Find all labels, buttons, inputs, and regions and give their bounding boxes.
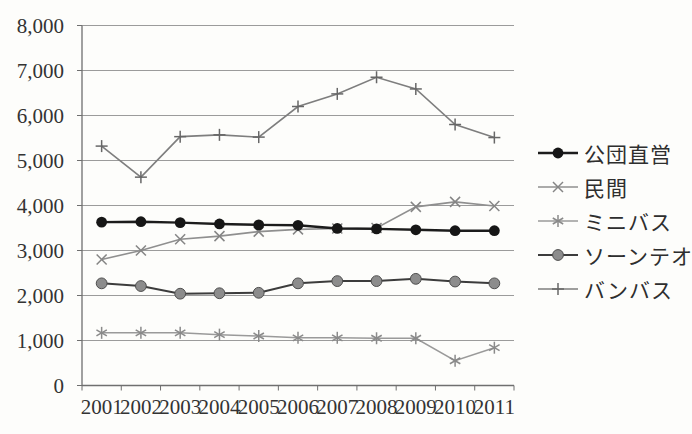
x-tick-label: 2010 <box>434 395 476 419</box>
legend-label: 公団直営 <box>584 138 672 168</box>
y-tick-label: 5,000 <box>17 149 64 173</box>
y-tick-label: 1,000 <box>17 329 64 353</box>
legend-item-minibus: ミニバス <box>538 204 692 238</box>
series-marker-filled-circle-gray <box>371 276 382 287</box>
series-marker-filled-circle-black <box>450 225 461 236</box>
y-tick-label: 3,000 <box>17 239 64 263</box>
series-marker-plus <box>552 283 564 295</box>
x-tick-label: 2004 <box>198 395 241 419</box>
x-tick-label: 2002 <box>120 395 162 419</box>
y-tick-label: 6,000 <box>17 104 64 128</box>
series-marker-filled-circle-black <box>489 225 500 236</box>
legend-item-minkan: 民間 <box>538 170 692 204</box>
x-tick-label: 2011 <box>474 395 515 419</box>
y-tick-label: 0 <box>54 374 65 398</box>
legend-label: 民間 <box>584 172 628 202</box>
y-tick-label: 7,000 <box>17 59 64 83</box>
series-marker-filled-circle-gray <box>175 288 186 299</box>
legend-marker-plus <box>538 277 582 301</box>
legend-marker-filled-circle-gray <box>538 243 582 267</box>
series-marker-plus <box>213 129 225 141</box>
series-marker-filled-circle-gray <box>293 278 304 289</box>
series-marker-filled-circle-black <box>332 223 343 234</box>
series-marker-filled-circle-gray <box>332 276 343 287</box>
series-marker-filled-circle-black <box>371 224 382 235</box>
legend-item-koudan-chokuei: 公団直営 <box>538 136 692 170</box>
series-marker-filled-circle-gray <box>214 288 225 299</box>
series-marker-plus <box>488 132 500 144</box>
x-tick-label: 2003 <box>159 395 201 419</box>
legend-label: ソーンテオ <box>584 240 692 270</box>
series-marker-asterisk <box>489 342 499 354</box>
series-marker-filled-circle-black <box>96 217 107 228</box>
y-tick-label: 8,000 <box>17 14 64 38</box>
legend-item-songthaew: ソーンテオ <box>538 238 692 272</box>
legend: 公団直営 民間 ミニバス ソーンテオ バンバス <box>538 136 692 306</box>
series-marker-filled-circle-gray <box>96 278 107 289</box>
x-tick-label: 2007 <box>316 395 358 419</box>
legend-marker-x <box>538 175 582 199</box>
series-marker-filled-circle-gray <box>136 281 147 292</box>
series-marker-filled-circle-gray <box>410 273 421 284</box>
series-marker-filled-circle-black <box>410 224 421 235</box>
x-tick-label: 2001 <box>81 395 123 419</box>
series-2 <box>96 327 499 367</box>
legend-marker-filled-circle-black <box>538 141 582 165</box>
x-tick-label: 2005 <box>238 395 280 419</box>
y-tick-label: 2,000 <box>17 284 64 308</box>
chart-figure: 01,0002,0003,0004,0005,0006,0007,0008,00… <box>0 0 692 434</box>
series-marker-filled-circle-black <box>293 220 304 231</box>
legend-item-vanbus: バンバス <box>538 272 692 306</box>
series-marker-filled-circle-gray <box>253 287 264 298</box>
x-tick-label: 2009 <box>395 395 437 419</box>
series-marker-filled-circle-black <box>553 148 564 159</box>
series-line <box>102 77 495 177</box>
series-marker-filled-circle-black <box>136 216 147 227</box>
series-marker-filled-circle-black <box>175 217 186 228</box>
y-tick-label: 4,000 <box>17 194 64 218</box>
legend-label: バンバス <box>584 274 673 304</box>
legend-label: ミニバス <box>584 206 672 236</box>
series-marker-filled-circle-black <box>214 219 225 230</box>
series-marker-filled-circle-gray <box>553 250 564 261</box>
series-marker-filled-circle-gray <box>450 276 461 287</box>
series-marker-plus <box>371 71 383 83</box>
series-marker-asterisk <box>450 355 460 367</box>
x-tick-label: 2006 <box>277 395 319 419</box>
series-marker-plus <box>331 88 343 100</box>
legend-marker-asterisk <box>538 209 582 233</box>
series-marker-filled-circle-gray <box>489 278 500 289</box>
series-4 <box>96 71 501 183</box>
series-0 <box>96 216 500 236</box>
series-marker-filled-circle-black <box>253 219 264 230</box>
x-tick-label: 2008 <box>356 395 398 419</box>
